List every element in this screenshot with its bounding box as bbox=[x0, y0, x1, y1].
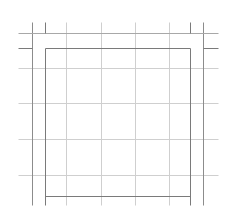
grid-diagram bbox=[0, 0, 232, 224]
grid-horizontal-lines bbox=[19, 69, 219, 176]
outer-guide-lines bbox=[19, 23, 219, 206]
grid-vertical-lines bbox=[67, 23, 170, 206]
inner-frame bbox=[19, 23, 219, 206]
